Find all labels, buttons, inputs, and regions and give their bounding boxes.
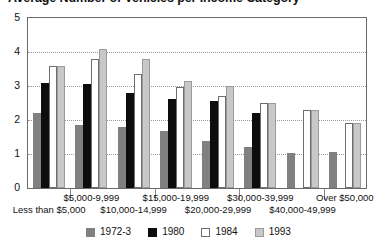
- y-tick-label: 4: [14, 46, 20, 56]
- y-tick-label: 0: [14, 182, 20, 192]
- bar: [287, 153, 295, 188]
- y-axis: 543210: [0, 17, 25, 189]
- legend-item[interactable]: 1984: [201, 227, 237, 237]
- bar: [345, 123, 353, 188]
- bar: [99, 49, 107, 188]
- legend-item[interactable]: 1972-3: [86, 227, 131, 237]
- bar-group: [239, 18, 281, 188]
- x-axis-label: $40,000-49,999: [248, 204, 358, 215]
- bar: [91, 59, 99, 188]
- bar: [311, 110, 319, 188]
- legend-swatch: [86, 228, 95, 237]
- bar: [303, 110, 311, 188]
- bar-group: [155, 18, 197, 188]
- bar: [126, 93, 134, 188]
- bar: [184, 81, 192, 188]
- bar: [160, 131, 168, 188]
- bar: [218, 96, 226, 188]
- bar: [83, 84, 91, 188]
- legend-label: 1984: [215, 227, 237, 237]
- bar: [268, 103, 276, 188]
- bar: [226, 86, 234, 188]
- bar: [244, 147, 252, 188]
- legend-item[interactable]: 1993: [255, 227, 291, 237]
- legend-label: 1972-3: [100, 227, 131, 237]
- legend-swatch: [148, 228, 157, 237]
- bar: [49, 66, 57, 188]
- bar: [329, 152, 337, 188]
- bar: [57, 66, 65, 188]
- y-tick-label: 3: [14, 80, 20, 90]
- y-tick-label: 1: [14, 148, 20, 158]
- bar: [176, 87, 184, 188]
- chart-title: Average Number of Vehicles per Income Ca…: [8, 0, 300, 5]
- bars-layer: [28, 18, 366, 188]
- bar-group: [70, 18, 112, 188]
- bar-chart: Average Number of Vehicles per Income Ca…: [0, 0, 377, 248]
- bar-group: [197, 18, 239, 188]
- bar-group: [324, 18, 366, 188]
- legend-swatch: [201, 228, 210, 237]
- bar: [41, 83, 49, 188]
- bar: [118, 127, 126, 188]
- bar: [202, 141, 210, 188]
- y-tick-label: 5: [14, 12, 20, 22]
- legend-label: 1993: [269, 227, 291, 237]
- bar: [252, 113, 260, 188]
- bar: [75, 125, 83, 188]
- bar: [210, 101, 218, 188]
- x-axis-label: Over $50,000: [290, 192, 377, 203]
- bar-group: [28, 18, 70, 188]
- bar: [33, 113, 41, 188]
- y-tick-label: 2: [14, 114, 20, 124]
- legend-label: 1980: [162, 227, 184, 237]
- bar-group: [282, 18, 324, 188]
- bar-group: [113, 18, 155, 188]
- bar: [353, 123, 361, 188]
- bar: [142, 59, 150, 188]
- bar: [134, 74, 142, 188]
- bar: [260, 103, 268, 188]
- legend-swatch: [255, 228, 264, 237]
- bar: [168, 99, 176, 188]
- legend-item[interactable]: 1980: [148, 227, 184, 237]
- chart-legend: 1972-3198019841993: [0, 227, 377, 237]
